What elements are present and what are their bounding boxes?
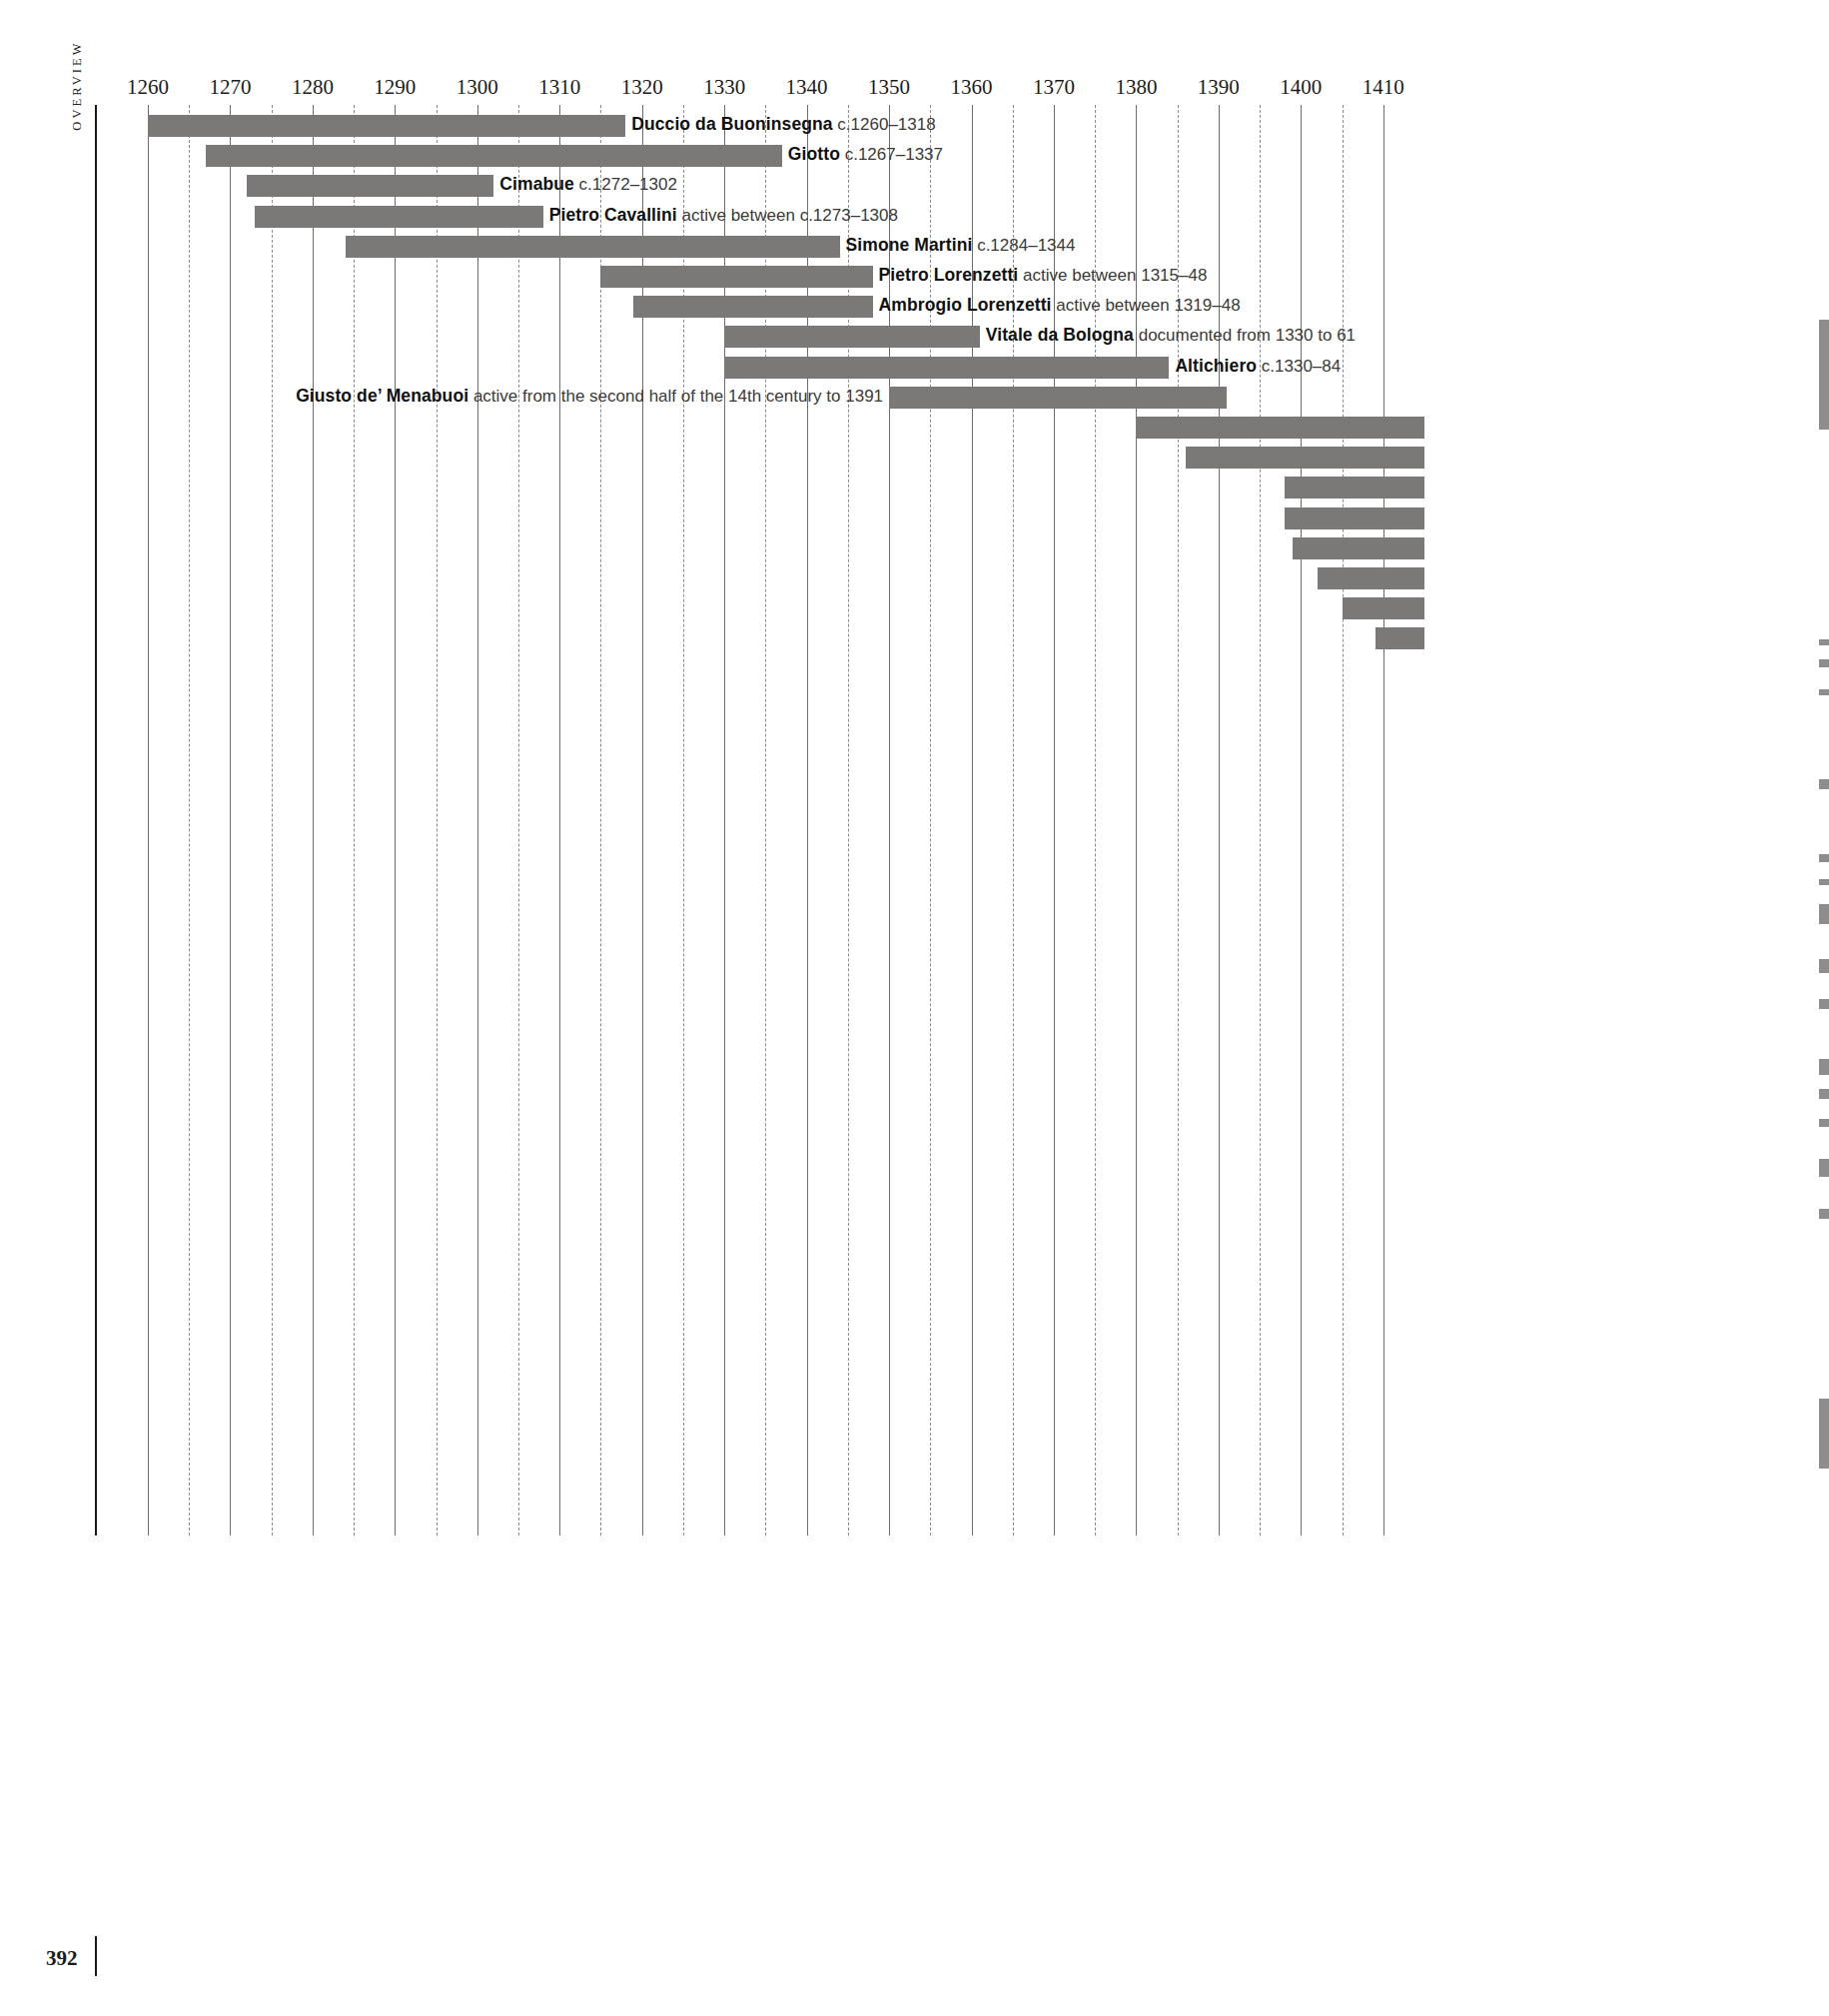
timeline-bar-label: Simone Martini c.1284–1344 xyxy=(846,232,1076,259)
artist-name: Giotto xyxy=(788,144,840,164)
artist-dates: c.1284–1344 xyxy=(972,236,1075,255)
artist-name: Cimabue xyxy=(499,174,574,194)
artist-dates: active between 1319–48 xyxy=(1052,296,1241,315)
timeline-bar[interactable] xyxy=(724,326,980,348)
timeline-bar[interactable] xyxy=(724,357,1169,379)
timeline-row-altichiero: Altichiero c.1330–84 xyxy=(95,355,1829,381)
artist-name: Vitale da Bologna xyxy=(986,325,1134,345)
page-edge-artifact xyxy=(1819,854,1829,862)
year-label-1330: 1330 xyxy=(703,75,745,100)
page-edge-artifact xyxy=(1819,879,1829,885)
year-label-1270: 1270 xyxy=(209,75,251,100)
timeline-row-pietro-lorenzetti: Pietro Lorenzetti active between 1315–48 xyxy=(95,264,1829,290)
timeline-row-unlabeled-17 xyxy=(95,625,1829,651)
artist-dates: c.1260–1318 xyxy=(833,115,936,134)
timeline-bar-label: Vitale da Bologna documented from 1330 t… xyxy=(986,322,1356,349)
page-edge-artifact xyxy=(1819,689,1829,695)
timeline-bar-label: Pietro Lorenzetti active between 1315–48 xyxy=(879,262,1208,289)
timeline-bar[interactable] xyxy=(1293,537,1424,559)
page-edge-artifact xyxy=(1819,1059,1829,1075)
timeline-row-unlabeled-11 xyxy=(95,445,1829,471)
folio-rule xyxy=(95,1936,97,1976)
section-label-text: OVERVIEW xyxy=(70,40,85,130)
artist-dates: c.1330–84 xyxy=(1257,357,1341,376)
timeline-page: OVERVIEW 1260127012801290130013101320133… xyxy=(0,0,1829,2016)
timeline-bar[interactable] xyxy=(889,387,1227,409)
artist-dates: c.1272–1302 xyxy=(574,175,677,194)
timeline-row-unlabeled-12 xyxy=(95,475,1829,501)
year-label-1310: 1310 xyxy=(538,75,580,100)
timeline-bar[interactable] xyxy=(1285,507,1424,529)
timeline-bar[interactable] xyxy=(1318,567,1424,589)
page-edge-artifact xyxy=(1819,639,1829,645)
artist-dates: active from the second half of the 14th … xyxy=(468,387,883,406)
timeline-row-simone-martini: Simone Martini c.1284–1344 xyxy=(95,234,1829,260)
timeline-bar[interactable] xyxy=(1285,477,1424,499)
year-label-1380: 1380 xyxy=(1115,75,1157,100)
timeline-bar[interactable] xyxy=(255,206,543,228)
page-edge-artifact xyxy=(1819,779,1829,789)
section-label-overview: OVERVIEW xyxy=(62,78,92,218)
year-label-1260: 1260 xyxy=(127,75,169,100)
timeline-bar-label: Duccio da Buoninsegna c.1260–1318 xyxy=(631,111,935,138)
timeline-plot-area: 1260127012801290130013101320133013401350… xyxy=(95,75,1829,1543)
timeline-bar-label: Pietro Cavallini active between c.1273–1… xyxy=(549,202,898,229)
page-edge-artifact xyxy=(1819,320,1829,430)
timeline-bar[interactable] xyxy=(1186,447,1424,469)
artist-name: Altichiero xyxy=(1175,356,1257,376)
timeline-bar[interactable] xyxy=(206,145,782,167)
year-label-1350: 1350 xyxy=(868,75,910,100)
year-label-1400: 1400 xyxy=(1280,75,1322,100)
artist-dates: active between 1315–48 xyxy=(1018,266,1207,285)
timeline-row-duccio-da-buoninsegna: Duccio da Buoninsegna c.1260–1318 xyxy=(95,113,1829,139)
timeline-row-unlabeled-16 xyxy=(95,595,1829,621)
timeline-bar[interactable] xyxy=(600,266,872,288)
artist-dates: documented from 1330 to 61 xyxy=(1134,326,1356,345)
artist-name: Pietro Lorenzetti xyxy=(879,265,1019,285)
year-label-1340: 1340 xyxy=(786,75,828,100)
page-edge-artifact xyxy=(1819,999,1829,1009)
page-edge-artifact xyxy=(1819,1119,1829,1127)
timeline-bar[interactable] xyxy=(247,175,493,197)
timeline-row-ambrogio-lorenzetti: Ambrogio Lorenzetti active between 1319–… xyxy=(95,294,1829,320)
year-label-1410: 1410 xyxy=(1363,75,1404,100)
artist-name: Ambrogio Lorenzetti xyxy=(879,295,1052,315)
timeline-bar-label: Cimabue c.1272–1302 xyxy=(499,171,677,198)
page-edge-artifact xyxy=(1819,1089,1829,1099)
timeline-bar[interactable] xyxy=(1136,417,1424,439)
year-label-1290: 1290 xyxy=(374,75,416,100)
year-label-1360: 1360 xyxy=(951,75,993,100)
timeline-row-unlabeled-15 xyxy=(95,565,1829,591)
timeline-row-unlabeled-13 xyxy=(95,505,1829,531)
timeline-bar-label: Giusto de’ Menabuoi active from the seco… xyxy=(296,383,883,410)
timeline-row-unlabeled-10 xyxy=(95,415,1829,441)
timeline-bar[interactable] xyxy=(346,236,840,258)
page-edge-artifact xyxy=(1819,959,1829,973)
artist-dates: active between c.1273–1308 xyxy=(677,206,898,225)
year-label-1370: 1370 xyxy=(1033,75,1075,100)
artist-name: Simone Martini xyxy=(846,235,973,255)
timeline-row-pietro-cavallini: Pietro Cavallini active between c.1273–1… xyxy=(95,204,1829,230)
timeline-bar[interactable] xyxy=(1375,627,1424,649)
timeline-row-cimabue: Cimabue c.1272–1302 xyxy=(95,173,1829,199)
page-edge-artifact xyxy=(1819,1159,1829,1177)
timeline-row-unlabeled-14 xyxy=(95,535,1829,561)
timeline-bar-label: Altichiero c.1330–84 xyxy=(1175,353,1341,380)
year-label-1320: 1320 xyxy=(621,75,663,100)
timeline-row-giusto-de-menabuoi: Giusto de’ Menabuoi active from the seco… xyxy=(95,385,1829,411)
artist-name: Giusto de’ Menabuoi xyxy=(296,386,468,406)
page-number: 392 xyxy=(46,1946,78,1971)
artist-name: Duccio da Buoninsegna xyxy=(631,114,832,134)
timeline-row-vitale-da-bologna: Vitale da Bologna documented from 1330 t… xyxy=(95,324,1829,350)
page-edge-artifact xyxy=(1819,1209,1829,1219)
timeline-row-giotto: Giotto c.1267–1337 xyxy=(95,143,1829,169)
timeline-bar[interactable] xyxy=(1343,597,1424,619)
page-edge-artifact xyxy=(1819,1399,1829,1469)
year-label-1280: 1280 xyxy=(292,75,334,100)
timeline-bar[interactable] xyxy=(633,296,872,318)
year-label-1390: 1390 xyxy=(1198,75,1240,100)
timeline-bar-label: Giotto c.1267–1337 xyxy=(788,141,943,168)
timeline-bar[interactable] xyxy=(148,115,625,137)
timeline-bar-label: Ambrogio Lorenzetti active between 1319–… xyxy=(879,292,1241,319)
artist-name: Pietro Cavallini xyxy=(549,205,677,225)
